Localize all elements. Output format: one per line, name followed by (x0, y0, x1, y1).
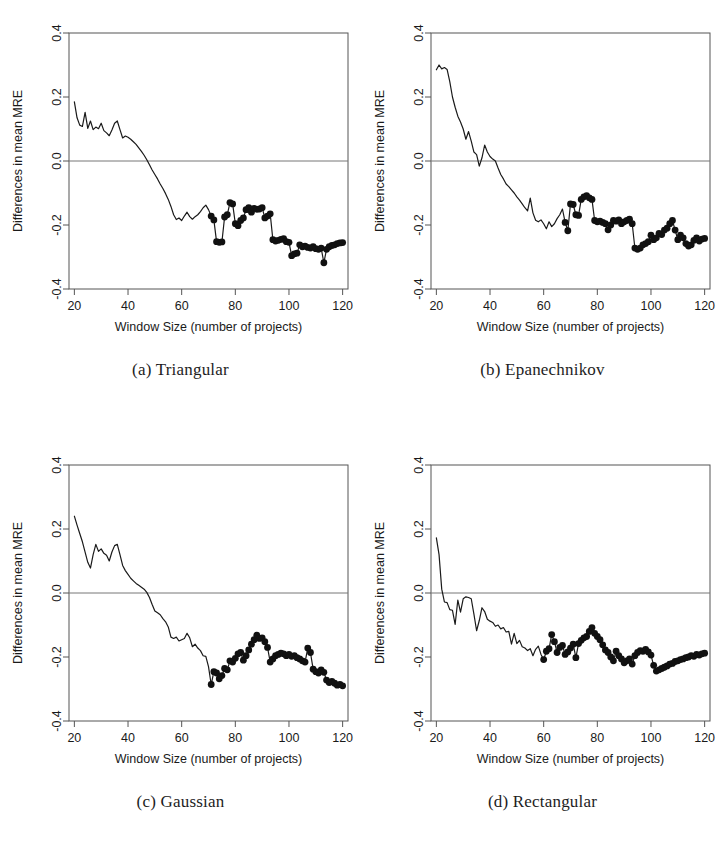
x-tick-label: 60 (537, 299, 551, 313)
y-tick-label: 0.4 (50, 24, 64, 41)
plot-a: -0.4-0.20.00.20.420406080100120Window Si… (0, 0, 361, 368)
data-point (286, 239, 293, 246)
x-tick-label: 120 (332, 299, 353, 313)
x-axis-title: Window Size (number of projects) (477, 752, 665, 766)
panel-b: -0.4-0.20.00.20.420406080100120Window Si… (362, 0, 723, 432)
x-tick-label: 120 (694, 731, 715, 745)
data-point (219, 672, 226, 679)
y-tick-label: -0.2 (412, 214, 426, 236)
x-tick-label: 40 (121, 731, 135, 745)
data-point (339, 239, 346, 246)
chart-svg-d: -0.4-0.20.00.20.420406080100120Window Si… (362, 432, 723, 800)
data-point (564, 227, 571, 234)
data-point (224, 211, 231, 218)
chart-svg-a: -0.4-0.20.00.20.420406080100120Window Si… (0, 0, 361, 368)
x-tick-label: 20 (67, 299, 81, 313)
data-point (648, 652, 655, 659)
panel-d: -0.4-0.20.00.20.420406080100120Window Si… (362, 432, 723, 864)
data-point (551, 638, 558, 645)
x-tick-label: 20 (429, 299, 443, 313)
panel-c: -0.4-0.20.00.20.420406080100120Window Si… (0, 432, 361, 864)
x-tick-label: 120 (694, 299, 715, 313)
y-tick-label: 0.2 (50, 88, 64, 105)
y-tick-label: 0.0 (50, 584, 64, 601)
data-point (572, 654, 579, 661)
x-tick-label: 20 (67, 731, 81, 745)
y-tick-label: -0.4 (50, 710, 64, 732)
data-point (302, 659, 309, 666)
x-tick-label: 120 (332, 731, 353, 745)
x-tick-label: 40 (483, 731, 497, 745)
y-tick-label: -0.2 (50, 646, 64, 668)
data-point (629, 220, 636, 227)
y-tick-label: -0.2 (50, 214, 64, 236)
data-point (259, 204, 266, 211)
chart-svg-c: -0.4-0.20.00.20.420406080100120Window Si… (0, 432, 361, 800)
x-tick-label: 60 (537, 731, 551, 745)
y-tick-label: 0.2 (412, 88, 426, 105)
x-tick-label: 60 (175, 299, 189, 313)
panel-caption-b: (b) Epanechnikov (362, 360, 723, 380)
data-point (559, 642, 566, 649)
data-point (546, 645, 553, 652)
data-point (672, 227, 679, 234)
data-markers (208, 632, 346, 689)
chart-svg-b: -0.4-0.20.00.20.420406080100120Window Si… (362, 0, 723, 368)
x-tick-label: 80 (228, 731, 242, 745)
y-tick-label: -0.4 (412, 710, 426, 732)
y-tick-label: -0.4 (412, 278, 426, 300)
x-tick-label: 60 (175, 731, 189, 745)
data-point (210, 216, 217, 223)
data-point (267, 210, 274, 217)
data-point (240, 215, 247, 222)
x-tick-label: 100 (279, 299, 300, 313)
data-point (224, 666, 231, 673)
y-axis-title: Differences in mean MRE (11, 522, 25, 664)
data-point (701, 235, 708, 242)
y-tick-label: 0.0 (412, 584, 426, 601)
y-tick-label: 0.0 (412, 152, 426, 169)
data-point (575, 212, 582, 219)
y-axis-title: Differences in mean MRE (373, 90, 387, 232)
data-point (570, 201, 577, 208)
plot-c: -0.4-0.20.00.20.420406080100120Window Si… (0, 432, 361, 800)
figure-grid: -0.4-0.20.00.20.420406080100120Window Si… (0, 0, 723, 865)
x-axis-title: Window Size (number of projects) (115, 320, 303, 334)
panel-caption-d: (d) Rectangular (362, 792, 723, 812)
y-axis-title: Differences in mean MRE (11, 90, 25, 232)
x-axis-title: Window Size (number of projects) (477, 320, 665, 334)
data-line (436, 65, 704, 249)
data-point (610, 657, 617, 664)
panel-caption-a: (a) Triangular (0, 360, 361, 380)
data-point (540, 656, 547, 663)
data-point (219, 239, 226, 246)
x-axis-title: Window Size (number of projects) (115, 752, 303, 766)
x-tick-label: 40 (121, 299, 135, 313)
data-point (307, 649, 314, 656)
data-point (589, 196, 596, 203)
y-tick-label: 0.4 (412, 24, 426, 41)
data-point (229, 200, 236, 207)
data-point (294, 250, 301, 257)
plot-b: -0.4-0.20.00.20.420406080100120Window Si… (362, 0, 723, 368)
data-line (74, 102, 342, 263)
x-tick-label: 100 (279, 731, 300, 745)
data-point (264, 644, 271, 651)
data-point (320, 669, 327, 676)
data-point (629, 661, 636, 668)
data-point (701, 650, 708, 657)
plot-d: -0.4-0.20.00.20.420406080100120Window Si… (362, 432, 723, 800)
data-point (548, 631, 555, 638)
data-point (562, 219, 569, 226)
y-tick-label: 0.4 (412, 456, 426, 473)
x-tick-label: 100 (641, 299, 662, 313)
y-tick-label: -0.2 (412, 646, 426, 668)
x-tick-label: 80 (228, 299, 242, 313)
data-point (320, 259, 327, 266)
y-tick-label: 0.4 (50, 456, 64, 473)
data-point (339, 682, 346, 689)
y-axis-title: Differences in mean MRE (373, 522, 387, 664)
x-tick-label: 40 (483, 299, 497, 313)
data-point (208, 681, 215, 688)
y-tick-label: 0.0 (50, 152, 64, 169)
